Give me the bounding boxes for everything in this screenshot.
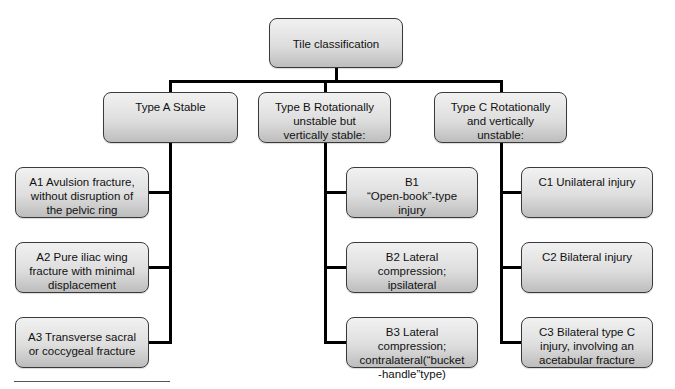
b2-branch-connector (324, 266, 346, 269)
footnote-divider (14, 381, 170, 382)
a2-node: A2 Pure iliac wing fracture with minimal… (15, 242, 149, 293)
type-b-node: Type B Rotationally unstable but vertica… (258, 92, 391, 143)
root-node-tile-classification: Tile classification (269, 18, 403, 68)
type-c-drop-connector (500, 80, 503, 92)
c3-node: C3 Bilateral type C injury, involving an… (521, 317, 653, 368)
c1-branch-connector (500, 191, 521, 194)
type-c-node: Type C Rotationally and vertically unsta… (434, 92, 567, 143)
type-bus-connector (169, 80, 503, 83)
c2-node: C2 Bilateral injury (521, 242, 653, 293)
type-b-drop-connector (324, 80, 327, 92)
a3-branch-connector (148, 341, 172, 344)
b1-branch-connector (324, 191, 346, 194)
c3-branch-connector (500, 341, 521, 344)
type-b-spine-connector (324, 142, 327, 344)
a1-branch-connector (148, 191, 172, 194)
b2-node: B2 Lateral compression; ipsilateral (346, 242, 478, 293)
type-a-spine-connector (169, 142, 172, 344)
type-a-node: Type A Stable (103, 92, 238, 143)
b1-node: B1 “Open-book”-type injury (346, 167, 478, 218)
type-a-drop-connector (169, 80, 172, 92)
a3-node: A3 Transverse sacral or coccygeal fractu… (15, 317, 149, 368)
a2-branch-connector (148, 266, 172, 269)
b3-branch-connector (324, 341, 346, 344)
c1-node: C1 Unilateral injury (521, 167, 653, 218)
b3-node: B3 Lateral compression; contralateral(“b… (346, 317, 478, 368)
type-c-spine-connector (500, 142, 503, 344)
c2-branch-connector (500, 266, 521, 269)
a1-node: A1 Avulsion fracture, without disruption… (15, 167, 149, 218)
